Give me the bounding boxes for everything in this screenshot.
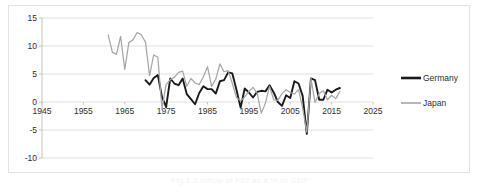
figure-caption: Fig 1.2 Inflow of FDI as a % of GDP bbox=[0, 176, 480, 185]
x-tick-label: 1955 bbox=[74, 106, 93, 116]
y-tick-label: 15 bbox=[28, 13, 38, 23]
legend-label-japan: Japan bbox=[423, 98, 446, 108]
y-tick-label: -5 bbox=[29, 125, 37, 135]
legend-label-germany: Germany bbox=[423, 73, 459, 83]
y-axis-tick-labels: -10-5051015 bbox=[25, 13, 42, 163]
data-series-group bbox=[108, 33, 340, 134]
x-tick-label: 2015 bbox=[322, 106, 341, 116]
chart-legend: GermanyJapan bbox=[401, 73, 459, 108]
x-axis-tick-labels: 194519551965197519851995200520152025 bbox=[33, 106, 383, 116]
y-tick-label: 5 bbox=[32, 69, 37, 79]
x-tick-label: 1945 bbox=[33, 106, 52, 116]
chart-frame: -10-5051015 1945195519651975198519952005… bbox=[8, 5, 470, 173]
x-tick-label: 2025 bbox=[364, 106, 383, 116]
x-tick-label: 1995 bbox=[239, 106, 258, 116]
x-tick-label: 1965 bbox=[115, 106, 134, 116]
y-tick-label: -10 bbox=[25, 153, 38, 163]
x-tick-label: 2005 bbox=[281, 106, 300, 116]
y-tick-label: 10 bbox=[28, 41, 38, 51]
line-chart: -10-5051015 1945195519651975198519952005… bbox=[9, 6, 469, 172]
x-tick-label: 1985 bbox=[198, 106, 217, 116]
